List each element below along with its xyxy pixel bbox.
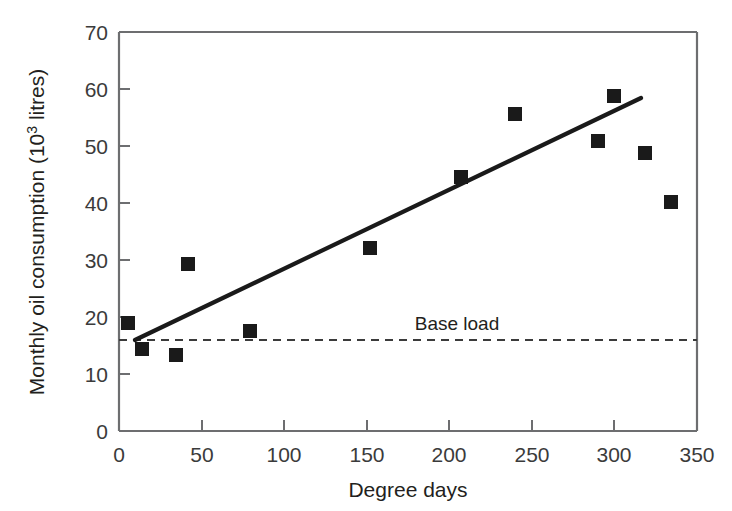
x-tick-label-300: 300 <box>596 443 631 466</box>
data-point-marker <box>181 257 195 271</box>
x-tick-label-0: 0 <box>113 443 125 466</box>
y-tick-labels: 0 10 20 30 40 50 60 70 <box>85 21 108 443</box>
data-point-marker <box>121 316 135 330</box>
x-tick-label-150: 150 <box>349 443 384 466</box>
data-point-marker <box>169 348 183 362</box>
y-axis-title-tail: litres) <box>25 69 48 126</box>
y-tick-label-60: 60 <box>85 78 108 101</box>
y-tick-label-70: 70 <box>85 21 108 44</box>
data-point-marker <box>243 324 257 338</box>
y-axis-ticks <box>119 89 130 431</box>
y-tick-label-20: 20 <box>85 306 108 329</box>
y-axis-title-superscript: 3 <box>24 126 40 134</box>
y-tick-label-50: 50 <box>85 135 108 158</box>
x-tick-label-350: 350 <box>679 443 714 466</box>
y-tick-label-40: 40 <box>85 192 108 215</box>
data-point-marker <box>135 342 149 356</box>
x-tick-label-100: 100 <box>266 443 301 466</box>
y-tick-label-0: 0 <box>96 420 108 443</box>
y-axis-title-main: Monthly oil consumption (10 <box>25 134 48 395</box>
y-tick-label-30: 30 <box>85 249 108 272</box>
scatter-plot-svg: 0 10 20 30 40 50 60 70 0 50 100 150 200 … <box>0 0 732 511</box>
y-axis-title: Monthly oil consumption (103 litres) <box>24 69 48 395</box>
data-point-marker <box>664 195 678 209</box>
y-tick-label-10: 10 <box>85 363 108 386</box>
data-point-marker <box>454 170 468 184</box>
data-point-marker <box>638 146 652 160</box>
x-axis-title: Degree days <box>348 478 467 501</box>
data-point-marker <box>591 134 605 148</box>
data-point-markers <box>121 89 678 362</box>
chart-figure: 0 10 20 30 40 50 60 70 0 50 100 150 200 … <box>0 0 732 511</box>
x-tick-label-250: 250 <box>514 443 549 466</box>
x-tick-label-50: 50 <box>190 443 213 466</box>
base-load-label: Base load <box>415 313 500 334</box>
data-point-marker <box>508 107 522 121</box>
data-point-marker <box>363 241 377 255</box>
x-tick-label-200: 200 <box>431 443 466 466</box>
data-point-marker <box>607 89 621 103</box>
x-tick-labels: 0 50 100 150 200 250 300 350 <box>113 443 714 466</box>
regression-trend-line <box>135 98 641 340</box>
x-axis-ticks <box>119 420 697 431</box>
